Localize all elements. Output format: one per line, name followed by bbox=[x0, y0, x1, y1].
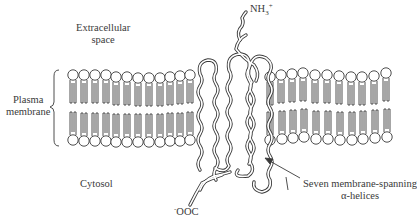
n-terminus-label: NH3+ bbox=[250, 3, 273, 15]
c-terminus-base: OOC bbox=[176, 206, 198, 217]
plasma-membrane-line-1: Plasma bbox=[6, 94, 50, 106]
extracellular-label: Extracellular space bbox=[76, 22, 130, 46]
left-bilayer bbox=[68, 70, 195, 147]
plasma-membrane-line-2: membrane bbox=[6, 106, 50, 118]
helices-line-1: Seven membrane-spanning bbox=[303, 178, 417, 190]
n-terminus-sup: + bbox=[269, 2, 273, 10]
helices-label: Seven membrane-spanning α-helices bbox=[303, 178, 417, 202]
extracellular-line-1: Extracellular bbox=[76, 22, 130, 34]
helices-line-2: α-helices bbox=[303, 190, 417, 202]
n-terminus-sub: 3 bbox=[265, 9, 269, 17]
right-bilayer bbox=[265, 68, 392, 145]
extracellular-line-2: space bbox=[76, 34, 130, 46]
cytosol-label: Cytosol bbox=[80, 178, 113, 190]
membrane-brace bbox=[50, 70, 59, 146]
seven-helices bbox=[190, 12, 272, 205]
n-terminus-base: NH bbox=[250, 3, 265, 14]
c-terminus-label: -OOC bbox=[174, 206, 199, 218]
plasma-membrane-label: Plasma membrane bbox=[6, 94, 50, 118]
